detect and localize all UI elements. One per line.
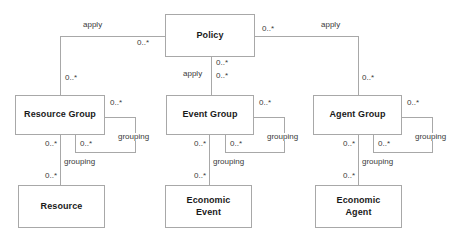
- node-economic-event[interactable]: Economic Event: [165, 185, 252, 228]
- mult-agent-group-self-in: 0..*: [377, 140, 391, 148]
- mult-event-group-self-in: 0..*: [229, 140, 243, 148]
- node-resource-label: Resource: [41, 201, 83, 212]
- node-event-group-label: Event Group: [182, 109, 237, 120]
- mult-resource-group-top: 0..*: [64, 74, 78, 82]
- mult-resource-group-self-out: 0..*: [109, 99, 123, 107]
- edge-label-grouping-agent-group-self: grouping: [414, 133, 447, 141]
- edge-policy-agent-group: [255, 36, 358, 95]
- edge-label-grouping-economic-event: grouping: [212, 158, 245, 166]
- edge-label-apply-left: apply: [82, 21, 103, 29]
- mult-agent-group-down: 0..*: [342, 140, 356, 148]
- node-event-group[interactable]: Event Group: [166, 95, 254, 135]
- node-agent-group[interactable]: Agent Group: [313, 95, 402, 135]
- node-economic-agent-label: Economic Agent: [337, 195, 381, 218]
- mult-policy-right: 0..*: [261, 25, 275, 33]
- mult-economic-agent-up: 0..*: [342, 172, 356, 180]
- mult-resource-group-down: 0..*: [44, 140, 58, 148]
- mult-resource-up: 0..*: [44, 172, 58, 180]
- node-policy-label: Policy: [196, 30, 223, 41]
- edge-label-grouping-event-group-self: grouping: [266, 133, 299, 141]
- node-resource-group-label: Resource Group: [24, 109, 96, 120]
- node-resource[interactable]: Resource: [18, 185, 105, 228]
- mult-economic-event-up: 0..*: [193, 172, 207, 180]
- mult-event-group-self-out: 0..*: [258, 99, 272, 107]
- edge-label-apply-right: apply: [320, 21, 341, 29]
- mult-agent-group-self-out: 0..*: [406, 99, 420, 107]
- edge-label-grouping-resource-group-self: grouping: [117, 133, 150, 141]
- node-economic-event-label: Economic Event: [187, 195, 231, 218]
- mult-agent-group-top: 0..*: [361, 74, 375, 82]
- edge-label-grouping-economic-agent: grouping: [361, 158, 394, 166]
- edge-label-apply-center: apply: [182, 70, 203, 78]
- uml-diagram-canvas: Policy Resource Group Event Group Agent …: [0, 0, 459, 239]
- mult-resource-group-self-in: 0..*: [79, 140, 93, 148]
- mult-event-group-down: 0..*: [193, 140, 207, 148]
- node-economic-agent[interactable]: Economic Agent: [315, 185, 402, 228]
- node-resource-group[interactable]: Resource Group: [15, 95, 105, 135]
- node-policy[interactable]: Policy: [165, 14, 255, 57]
- mult-policy-left: 0..*: [136, 39, 150, 47]
- edge-label-grouping-resource: grouping: [63, 158, 96, 166]
- node-agent-group-label: Agent Group: [329, 109, 385, 120]
- mult-policy-down-top: 0..*: [215, 59, 229, 67]
- mult-policy-down-bottom: 0..*: [215, 72, 229, 80]
